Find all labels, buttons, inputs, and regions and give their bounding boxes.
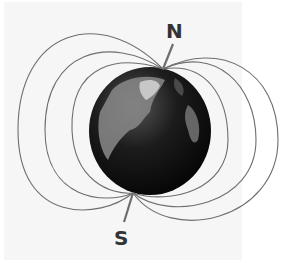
north-pole-label: N xyxy=(166,19,183,43)
earth-globe xyxy=(89,67,211,195)
south-axis-line xyxy=(124,193,133,222)
magnetic-field-diagram: N S xyxy=(0,0,284,263)
south-pole-label: S xyxy=(114,226,128,250)
diagram-canvas: N S xyxy=(0,0,284,263)
